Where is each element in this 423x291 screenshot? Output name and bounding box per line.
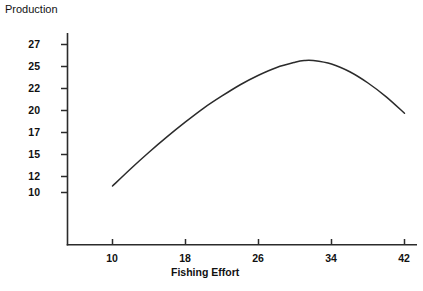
chart-canvas: Production 27 25 22 20 17 15 12 10 10 18…	[0, 0, 423, 291]
production-curve	[113, 60, 405, 186]
y-axis-ticks	[61, 45, 67, 193]
chart-plot-area	[0, 0, 423, 291]
